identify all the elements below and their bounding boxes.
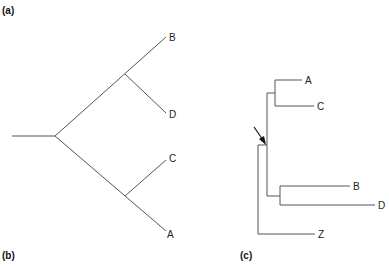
branch-a: [55, 136, 166, 231]
taxon-c-label-c: C: [317, 101, 324, 112]
taxon-a-label-c: A: [305, 75, 312, 86]
taxon-b-label-c: B: [353, 181, 360, 192]
branch-c: [125, 160, 166, 196]
taxon-a-label: A: [167, 229, 174, 240]
taxon-z-label-c: Z: [318, 229, 324, 240]
branch-b: [55, 37, 166, 136]
phylogeny-figure: B D C A A C B D Z: [0, 0, 389, 267]
taxon-b-label: B: [169, 32, 176, 43]
branch-d: [125, 74, 166, 113]
taxon-c-label: C: [169, 153, 176, 164]
root-arrow-icon: [254, 127, 266, 145]
taxon-d-label: D: [169, 109, 176, 120]
tree-ab: [12, 37, 166, 231]
tree-ab-labels: B D C A: [167, 32, 176, 240]
tree-c-labels: A C B D Z: [305, 75, 385, 240]
taxon-d-label-c: D: [378, 200, 385, 211]
